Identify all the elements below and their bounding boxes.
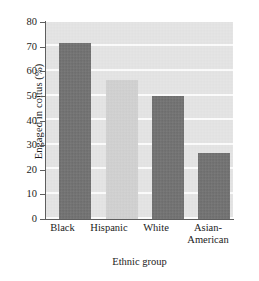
y-tick-label-60: 60 [0,66,37,77]
y-tick-label-30: 30 [0,140,37,151]
x-tick-label-asian-american: Asian- American [175,222,241,245]
y-tick-mark [40,194,45,195]
y-tick-label-20: 20 [0,165,37,176]
x-axis-title: Ethnic group [46,256,233,267]
y-tick-mark [40,121,45,122]
bar-asian-american [198,153,230,220]
y-tick-label-0: 0 [0,214,37,225]
y-tick-mark [40,47,45,48]
bar-black [59,43,91,219]
x-tick-label-line: Asian- [175,222,241,234]
x-axis-line [45,219,234,220]
y-tick-mark [40,170,45,171]
y-tick-label-40: 40 [0,116,37,127]
y-tick-mark [40,22,45,23]
y-tick-mark [40,71,45,72]
plot-area [46,22,233,219]
x-tick-label-line: American [175,234,241,246]
y-tick-label-80: 80 [0,17,37,28]
y-tick-label-70: 70 [0,42,37,53]
y-tick-mark [40,145,45,146]
y-tick-label-10: 10 [0,189,37,200]
y-tick-mark [40,219,45,220]
bar-white [152,96,184,219]
y-axis-line [45,21,46,220]
bar-hispanic [106,80,138,219]
y-tick-mark [40,96,45,97]
bar-chart-figure: Engaged in coitus (%) 0 10 20 30 40 50 6… [0,0,259,281]
y-tick-label-50: 50 [0,91,37,102]
